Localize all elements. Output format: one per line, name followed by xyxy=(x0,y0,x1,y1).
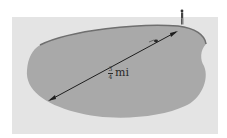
distance-unit: mi xyxy=(115,67,129,78)
lake-diagram: 3 4 mi xyxy=(0,0,227,138)
fraction-denominator: 4 xyxy=(109,74,113,80)
fraction-numerator: 3 xyxy=(109,66,113,72)
distance-label: 3 4 mi xyxy=(108,66,129,80)
distance-fraction: 3 4 xyxy=(108,66,113,80)
